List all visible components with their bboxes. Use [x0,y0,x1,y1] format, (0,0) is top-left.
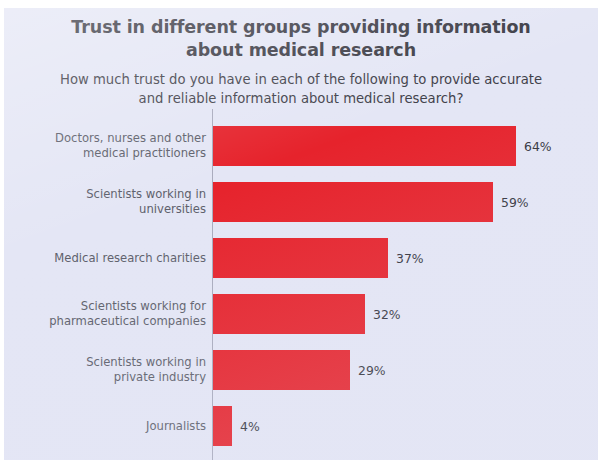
chart-title: Trust in different groups providing info… [4,16,598,62]
bar-category-label: Journalists [16,419,206,434]
bar-category-label-line-1: Medical research charities [54,251,206,265]
chart-panel: Trust in different groups providing info… [4,8,598,460]
chart-title-line-2: about medical research [4,39,598,62]
bar-row: Scientists working in universities 59% [4,174,598,230]
bar-value-label: 4% [240,419,260,434]
bar-value-label: 64% [524,139,552,154]
bar-doctors-nurses[interactable] [213,126,516,166]
bar-category-label-line-1: Scientists working in [86,355,206,369]
bar-category-label: Scientists working for pharmaceutical co… [16,299,206,329]
bar-value-label: 29% [358,363,386,378]
chart-subtitle: How much trust do you have in each of th… [34,70,568,108]
bar-row: Scientists working in private industry 2… [4,342,598,398]
bar-chart: Doctors, nurses and other medical practi… [4,104,598,460]
bar-value-label: 37% [396,251,424,266]
bar-category-label-line-2: universities [16,202,206,217]
bar-row: Doctors, nurses and other medical practi… [4,118,598,174]
bar-category-label: Scientists working in private industry [16,355,206,385]
bar-category-label-line-2: private industry [16,370,206,385]
bar-scientists-pharmaceutical[interactable] [213,294,365,334]
bar-journalists[interactable] [213,406,232,446]
bar-value-label: 59% [501,195,529,210]
bar-category-label-line-1: Scientists working in [86,187,206,201]
chart-subtitle-line-1: How much trust do you have in each of th… [60,72,542,87]
bar-scientists-private-industry[interactable] [213,350,350,390]
chart-poster: Trust in different groups providing info… [0,0,602,473]
bar-row: Medical research charities 37% [4,230,598,286]
bar-category-label: Medical research charities [16,251,206,266]
bar-category-label: Doctors, nurses and other medical practi… [16,131,206,161]
bar-category-label-line-2: medical practitioners [16,146,206,161]
bar-category-label: Scientists working in universities [16,187,206,217]
bar-category-label-line-1: Doctors, nurses and other [55,131,206,145]
bar-category-label-line-1: Journalists [146,419,206,433]
bar-scientists-universities[interactable] [213,182,493,222]
bar-row: Journalists 4% [4,398,598,454]
bar-category-label-line-2: pharmaceutical companies [16,314,206,329]
bar-category-label-line-1: Scientists working for [81,299,206,313]
bar-value-label: 32% [373,307,401,322]
bar-row: Scientists working for pharmaceutical co… [4,286,598,342]
bar-medical-research-charities[interactable] [213,238,388,278]
chart-title-line-1: Trust in different groups providing info… [71,17,530,37]
